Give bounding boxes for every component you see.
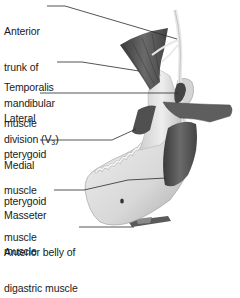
label-line: Lateral (4, 112, 46, 124)
label-line: digastric muscle (4, 282, 78, 294)
label-suffix: ) (55, 133, 58, 145)
label-line: Anterior belly of (4, 246, 78, 258)
label-line: Medial (4, 159, 46, 171)
label-line: Masseter (4, 209, 46, 221)
label-line: Anterior (4, 25, 59, 37)
masseter-muscle-shape (163, 122, 197, 187)
leader-temporalis (57, 62, 139, 71)
label-anterior-belly-digastric: Anterior belly of digastric muscle (4, 222, 78, 298)
